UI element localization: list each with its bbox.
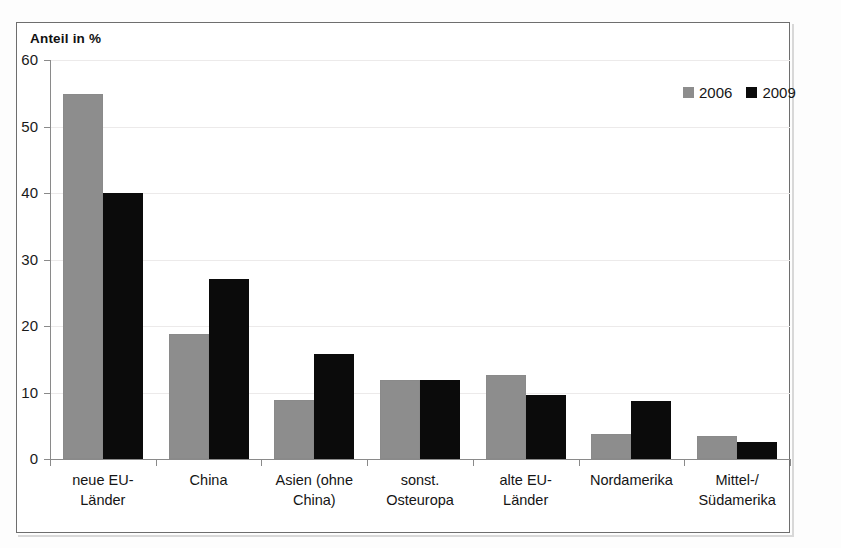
legend-item-2009: 2009 <box>746 84 795 101</box>
bar-0-4 <box>486 375 526 459</box>
bar-1-5 <box>631 401 671 459</box>
y-axis-tick-label: 40 <box>2 184 38 201</box>
y-axis-tick-label: 10 <box>2 384 38 401</box>
bar-1-1 <box>209 279 249 459</box>
x-axis-category-label: Asien (ohne China) <box>253 470 375 510</box>
black-square-icon <box>746 87 757 98</box>
bar-1-2 <box>314 354 354 459</box>
x-axis-category-label: Mittel-/ Südamerika <box>676 470 798 510</box>
x-axis-category-label: neue EU- Länder <box>42 470 164 510</box>
chart-legend: 20062009 <box>683 84 796 101</box>
bar-0-1 <box>169 334 209 459</box>
y-axis-tick <box>44 260 51 261</box>
y-axis-tick-label: 50 <box>2 118 38 135</box>
page-root: Anteil in % 20062009 0102030405060neue E… <box>0 0 841 548</box>
y-axis-tick-label: 20 <box>2 317 38 334</box>
x-axis-category-label: Nordamerika <box>571 470 693 490</box>
y-axis-tick <box>44 393 51 394</box>
y-axis-tick <box>44 60 51 61</box>
bar-0-0 <box>63 94 103 459</box>
bar-1-6 <box>737 442 777 459</box>
x-axis-category-label: sonst. Osteuropa <box>359 470 481 510</box>
x-axis-category-label: China <box>148 470 270 490</box>
legend-label: 2006 <box>699 84 732 101</box>
x-axis-tick <box>261 459 262 466</box>
bar-0-2 <box>274 400 314 459</box>
bar-0-6 <box>697 436 737 459</box>
bars-layer <box>50 60 790 459</box>
x-axis-tick <box>156 459 157 466</box>
gray-square-icon <box>683 87 694 98</box>
x-axis-tick <box>684 459 685 466</box>
y-axis-tick-label: 30 <box>2 251 38 268</box>
legend-item-2006: 2006 <box>683 84 732 101</box>
bar-1-0 <box>103 193 143 459</box>
bar-0-3 <box>380 380 420 459</box>
x-axis-tick <box>50 459 51 466</box>
y-axis-tick <box>44 326 51 327</box>
y-axis-tick-label: 60 <box>2 51 38 68</box>
x-axis-category-label: alte EU- Länder <box>465 470 587 510</box>
legend-label: 2009 <box>762 84 795 101</box>
x-axis-line <box>50 459 790 460</box>
bar-1-3 <box>420 380 460 459</box>
y-axis-tick <box>44 127 51 128</box>
bar-0-5 <box>591 434 631 459</box>
bar-1-4 <box>526 395 566 460</box>
x-axis-tick <box>473 459 474 466</box>
y-axis-title: Anteil in % <box>30 31 101 46</box>
x-axis-tick <box>790 459 791 466</box>
x-axis-tick <box>579 459 580 466</box>
x-axis-tick <box>367 459 368 466</box>
y-axis-tick-label: 0 <box>2 450 38 467</box>
y-axis-tick <box>44 193 51 194</box>
